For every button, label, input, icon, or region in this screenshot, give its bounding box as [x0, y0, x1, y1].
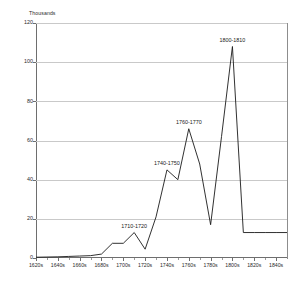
- data-point-annotation: 1800-1810: [220, 38, 246, 43]
- data-series-line: [0, 0, 304, 281]
- data-point-annotation: 1710-1720: [121, 224, 147, 229]
- line-chart: Thousands 020406080100120 1620s1640s1660…: [0, 0, 304, 281]
- data-point-annotation: 1740-1750: [154, 161, 180, 166]
- data-point-annotation: 1760-1770: [176, 120, 202, 125]
